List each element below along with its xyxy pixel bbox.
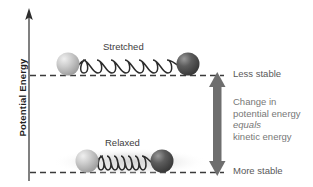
- annotation-line-1: Change in: [233, 96, 301, 108]
- annotation-line-3: equals: [233, 119, 301, 131]
- stretched-left-atom: [57, 53, 80, 76]
- energy-change-arrow-icon: [209, 72, 226, 176]
- potential-energy-diagram: Potential Energy Stretched Relaxed Less …: [0, 0, 313, 187]
- more-stable-label: More stable: [233, 165, 283, 176]
- relaxed-right-atom: [151, 150, 174, 173]
- stretched-spring: [74, 60, 182, 73]
- annotation-line-4: kinetic energy: [233, 131, 301, 143]
- relaxed-glow: [52, 148, 208, 176]
- energy-change-annotation: Change in potential energy equals kineti…: [233, 96, 301, 142]
- diagram-graphics: [0, 0, 313, 187]
- less-stable-label: Less stable: [233, 68, 281, 79]
- y-axis-label: Potential Energy: [17, 43, 28, 153]
- stretched-spring-system: [57, 53, 200, 76]
- relaxed-left-atom: [76, 150, 99, 173]
- relaxed-label: Relaxed: [105, 137, 140, 148]
- stretched-label: Stretched: [103, 41, 144, 52]
- stretched-right-atom: [177, 53, 200, 76]
- annotation-line-2: potential energy: [233, 108, 301, 120]
